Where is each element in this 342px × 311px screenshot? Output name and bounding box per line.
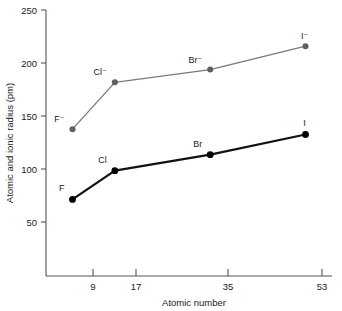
data-point [111,167,118,174]
data-point-label: F⁻ [54,114,64,124]
x-tick-label: 35 [223,281,234,292]
data-point [69,196,76,203]
x-tick-label: 9 [90,281,95,292]
y-axis-tick-labels: 250 200 150 100 50 [21,5,37,228]
y-axis-ticks [41,10,46,222]
x-tick-label: 17 [131,281,142,292]
data-point-label: Cl [98,155,107,165]
x-axis-tick-labels: 9 17 35 53 [90,281,327,292]
data-point-label: Cl⁻ [94,67,107,77]
data-point [69,126,75,132]
y-tick-label: 50 [26,217,37,228]
x-axis-ticks [93,269,322,276]
series-line-atomic-radius [72,134,305,199]
data-point-label: Br [193,139,202,149]
data-point [303,43,309,49]
y-tick-label: 100 [21,164,37,175]
data-point-label: F [59,183,65,193]
line-chart: 250 200 150 100 50 9 17 35 53 Atomic num… [0,0,342,311]
data-point [207,67,213,73]
x-tick-label: 53 [317,281,328,292]
data-point-label: I [303,118,306,128]
y-tick-label: 250 [21,5,37,16]
y-tick-label: 200 [21,58,37,69]
data-point-label: Br⁻ [188,55,202,65]
data-point [112,79,118,85]
x-axis-title: Atomic number [162,297,226,308]
data-point-label: I⁻ [301,31,309,41]
series-point-labels-ionic-radius: F⁻Cl⁻Br⁻I⁻ [54,31,308,124]
data-point [207,151,214,158]
chart-container: 250 200 150 100 50 9 17 35 53 Atomic num… [0,0,342,311]
y-tick-label: 150 [21,111,37,122]
data-point [302,131,309,138]
y-axis-title: Atomic and ionic radius (pm) [4,83,15,203]
